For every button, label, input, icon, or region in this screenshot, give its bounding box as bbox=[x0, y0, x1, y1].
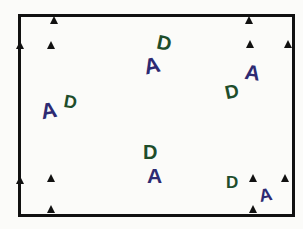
letter-d: D bbox=[226, 174, 238, 191]
triangle-marker-icon bbox=[246, 40, 254, 48]
triangle-marker-icon bbox=[50, 16, 58, 24]
triangle-marker-icon bbox=[47, 205, 55, 213]
triangle-marker-icon bbox=[284, 40, 292, 48]
letter-a: A bbox=[147, 165, 162, 186]
triangle-marker-icon bbox=[47, 174, 55, 182]
triangle-marker-icon bbox=[16, 41, 24, 49]
triangle-marker-icon bbox=[249, 174, 257, 182]
letter-a: A bbox=[39, 99, 58, 123]
letter-d: D bbox=[143, 142, 157, 162]
triangle-marker-icon bbox=[245, 16, 253, 24]
triangle-marker-icon bbox=[281, 174, 289, 182]
triangle-marker-icon bbox=[16, 176, 24, 184]
triangle-marker-icon bbox=[249, 205, 257, 213]
letter-a: A bbox=[244, 61, 262, 84]
triangle-marker-icon bbox=[47, 41, 55, 49]
